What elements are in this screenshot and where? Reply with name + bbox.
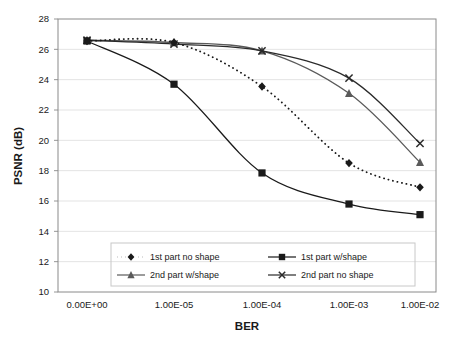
legend-item-label: 2nd part w/shape xyxy=(150,270,219,280)
data-point-marker xyxy=(345,200,352,207)
y-tick-label: 28 xyxy=(38,13,49,24)
y-tick-label: 12 xyxy=(38,256,49,267)
psnr-ber-chart: 10121416182022242628 0.00E+001.00E-051.0… xyxy=(0,0,450,352)
x-axis-title: BER xyxy=(235,320,260,332)
y-tick-label: 14 xyxy=(38,226,49,237)
y-tick-label: 22 xyxy=(38,104,49,115)
x-tick-label: 1.00E-04 xyxy=(243,299,282,310)
x-tick-label: 1.00E-03 xyxy=(330,299,369,310)
chart-canvas: 10121416182022242628 0.00E+001.00E-051.0… xyxy=(0,0,450,352)
y-tick-label: 24 xyxy=(38,74,49,85)
x-tick-label: 1.00E-05 xyxy=(155,299,194,310)
legend-marker-swatch xyxy=(279,254,285,260)
y-tick-label: 16 xyxy=(38,195,49,206)
y-tick-label: 20 xyxy=(38,135,49,146)
y-tick-label: 18 xyxy=(38,165,49,176)
legend-item-label: 1st part w/shape xyxy=(301,252,367,262)
data-point-marker xyxy=(170,81,177,88)
y-tick-label: 10 xyxy=(38,286,49,297)
legend-item-label: 2nd part no shape xyxy=(301,270,374,280)
data-point-marker xyxy=(416,211,423,218)
x-tick-label: 1.00E-02 xyxy=(401,299,440,310)
x-tick-label: 0.00E+00 xyxy=(67,299,108,310)
y-axis-title: PSNR (dB) xyxy=(12,127,24,185)
data-point-marker xyxy=(258,169,265,176)
legend-item-label: 1st part no shape xyxy=(150,252,220,262)
y-tick-label: 26 xyxy=(38,44,49,55)
